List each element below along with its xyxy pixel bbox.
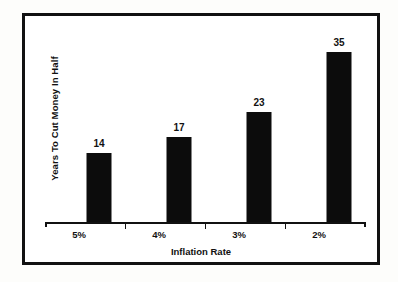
plot-area: Years To Cut Money In Half 14 17 23 35 bbox=[25, 16, 377, 262]
bar[interactable] bbox=[327, 52, 352, 222]
bar[interactable] bbox=[87, 153, 112, 222]
x-axis-category-label: 3% bbox=[205, 229, 273, 240]
bar-value-label: 14 bbox=[93, 138, 104, 149]
bar-value-label: 23 bbox=[253, 97, 264, 108]
bar-series: 14 17 23 35 bbox=[45, 16, 366, 222]
bar-group: 14 bbox=[65, 16, 133, 222]
bar-value-label: 17 bbox=[173, 122, 184, 133]
bar-group: 35 bbox=[305, 16, 373, 222]
bar[interactable] bbox=[247, 112, 272, 222]
axis-end-tick-right bbox=[364, 222, 366, 227]
bar-value-label: 35 bbox=[333, 37, 344, 48]
bar[interactable] bbox=[167, 137, 192, 222]
x-axis-category-label: 2% bbox=[285, 229, 353, 240]
chart-frame: Years To Cut Money In Half 14 17 23 35 bbox=[22, 13, 380, 265]
axis-end-tick-left bbox=[45, 222, 47, 227]
x-axis-category-label: 5% bbox=[45, 229, 113, 240]
x-axis-title: Inflation Rate bbox=[25, 246, 377, 257]
bar-group: 17 bbox=[145, 16, 213, 222]
bar-group: 23 bbox=[225, 16, 293, 222]
x-axis-category-label: 4% bbox=[125, 229, 193, 240]
